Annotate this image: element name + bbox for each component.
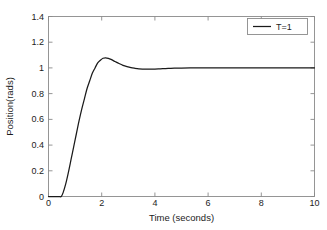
step-response-chart: 0 2 4 6 8 10 0 0.2 0.4 0.6 0.8 1 1.2 1.4… [0,0,327,230]
y-tick-label: 0.4 [31,140,44,150]
x-tick-label: 6 [206,198,211,208]
x-tick-label: 8 [259,198,264,208]
y-tick-label: 0.8 [31,89,44,99]
y-tick-labels: 0 0.2 0.4 0.6 0.8 1 1.2 1.4 [31,12,44,202]
plot-frame [49,17,315,197]
x-axis-title: Time (seconds) [149,212,214,223]
x-tick-label: 4 [152,198,157,208]
y-tick-label: 0.6 [31,114,44,124]
figure-canvas: 0 2 4 6 8 10 0 0.2 0.4 0.6 0.8 1 1.2 1.4… [0,0,327,230]
x-tick-label: 2 [99,198,104,208]
legend[interactable]: T=1 [248,19,308,35]
x-tick-label: 10 [309,198,319,208]
y-axis-title: Position(rads) [4,77,15,136]
y-tick-label: 1.2 [31,37,44,47]
y-tick-label: 1 [39,63,44,73]
y-tick-label: 0 [39,192,44,202]
x-axis-ticks [49,17,315,197]
y-axis-ticks [49,17,315,197]
series-line-t1 [49,58,315,197]
y-tick-label: 0.2 [31,166,44,176]
x-tick-label: 0 [46,198,51,208]
y-tick-label: 1.4 [31,12,44,22]
x-tick-labels: 0 2 4 6 8 10 [46,198,320,208]
legend-label-t1: T=1 [276,22,292,32]
